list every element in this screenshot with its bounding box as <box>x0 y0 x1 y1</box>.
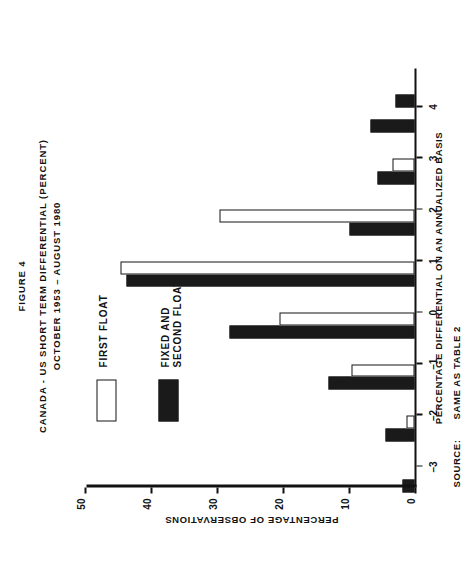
figure-number: FIGURE 4 <box>14 0 28 571</box>
y-tick <box>414 487 416 493</box>
y-tick-label: 10 <box>340 498 351 509</box>
rotated-figure-container: FIGURE 4 CANADA - US SHORT TERM DIFFEREN… <box>0 0 469 571</box>
y-axis-label: PERCENTAGE OF OBSERVATIONS <box>164 514 338 525</box>
y-axis-line <box>86 485 416 488</box>
bar-fixed-second-float <box>349 222 414 235</box>
x-tick <box>416 156 422 158</box>
bar-first-float <box>219 209 414 222</box>
bar-first-float <box>279 312 414 325</box>
figure-canvas: FIGURE 4 CANADA - US SHORT TERM DIFFEREN… <box>0 0 469 571</box>
x-tick <box>416 413 422 415</box>
figure-page: FIGURE 4 CANADA - US SHORT TERM DIFFEREN… <box>0 0 469 571</box>
x-tick <box>416 465 422 467</box>
y-tick-label: 30 <box>208 498 219 509</box>
x-axis-line <box>414 68 417 487</box>
bar-fixed-second-float <box>126 274 414 287</box>
source-label: SOURCE: <box>450 439 461 487</box>
y-tick <box>84 487 86 493</box>
y-tick-label: 50 <box>76 498 87 509</box>
bar-fixed-second-float <box>377 171 414 184</box>
bar-first-float <box>406 415 414 428</box>
bar-fixed-second-float <box>385 428 414 441</box>
bar-fixed-second-float <box>229 325 414 338</box>
y-tick <box>282 487 284 493</box>
x-axis-label: PERCENTAGE DIFFERENTIAL ON AN ANNUALIZED… <box>432 68 443 487</box>
bar-first-float <box>351 364 414 377</box>
y-tick <box>150 487 152 493</box>
bar-first-float <box>120 261 414 274</box>
figure-title-line1: CANADA - US SHORT TERM DIFFERENTIAL (PER… <box>35 0 49 571</box>
source-note: SOURCE:SAME AS TABLE 2 <box>450 326 461 487</box>
bar-fixed-second-float <box>370 119 414 132</box>
x-tick <box>416 105 422 107</box>
figure-title-line2: OCTOBER 1953 – AUGUST 1980 <box>49 0 63 571</box>
y-tick <box>348 487 350 493</box>
bar-first-float <box>392 158 414 171</box>
x-tick <box>416 259 422 261</box>
figure-title: FIGURE 4 CANADA - US SHORT TERM DIFFEREN… <box>14 0 63 571</box>
source-text: SAME AS TABLE 2 <box>450 326 461 419</box>
x-tick <box>416 311 422 313</box>
y-tick <box>216 487 218 493</box>
plot-area: –3–2–101234 01020304050 <box>86 68 416 487</box>
y-tick-label: 0 <box>406 498 417 504</box>
y-tick-label: 40 <box>142 498 153 509</box>
y-tick-label: 20 <box>274 498 285 509</box>
bar-fixed-second-float <box>328 376 414 389</box>
x-tick <box>416 362 422 364</box>
bar-fixed-second-float <box>395 94 414 107</box>
x-tick <box>416 208 422 210</box>
